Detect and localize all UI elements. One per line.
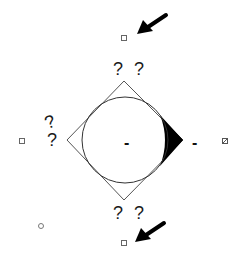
top-question-marks: ? ? (113, 60, 147, 78)
left-square-marker[interactable] (20, 139, 25, 144)
right-checkbox-icon[interactable] (223, 139, 228, 144)
bottom-arrow-icon (135, 223, 164, 242)
bottom-question-marks: ? ? (113, 204, 147, 222)
bottom-square-marker[interactable] (122, 241, 127, 246)
center-dash: - (124, 135, 129, 151)
left-question-mark-lower: ? (47, 131, 57, 149)
right-dash: - (192, 135, 197, 151)
bottom-left-circle-marker[interactable] (39, 224, 44, 229)
top-square-marker[interactable] (122, 36, 127, 41)
top-arrow-icon (137, 15, 166, 34)
